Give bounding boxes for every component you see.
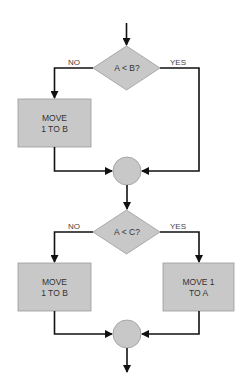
- process-2-line-2: 1 TO B: [41, 288, 68, 298]
- process-box-2: [18, 263, 91, 311]
- flowchart-diagram: A < B? NO YES MOVE 1 TO B A < C? NO YES …: [0, 0, 246, 389]
- process-3-line-2: TO A: [189, 288, 209, 298]
- process-2-line-1: MOVE: [42, 277, 67, 287]
- process-1-line-2: 1 TO B: [41, 124, 68, 134]
- decision-1-label: A < B?: [114, 63, 140, 73]
- edge-d2-yes: [160, 232, 199, 262]
- process-box-3: [163, 263, 234, 311]
- edge-p2-to-connector2: [55, 311, 113, 334]
- process-move-1-to-b-bottom: MOVE 1 TO B: [18, 263, 91, 311]
- edge-d1-no: [55, 68, 94, 98]
- edge-p3-to-connector2: [142, 311, 199, 334]
- connector-circle-2: [113, 320, 141, 348]
- decision-a-less-than-c: A < C?: [93, 210, 160, 254]
- edge-label-d2-no: NO: [68, 222, 80, 231]
- process-3-line-1: MOVE 1: [182, 277, 214, 287]
- edge-d1-yes: [142, 68, 199, 171]
- edge-label-d1-no: NO: [68, 58, 80, 67]
- process-1-line-1: MOVE: [42, 113, 67, 123]
- edge-d2-no: [55, 232, 94, 262]
- process-move-1-to-b-top: MOVE 1 TO B: [18, 99, 91, 147]
- decision-2-label: A < C?: [114, 227, 140, 237]
- connector-circle-1: [113, 157, 141, 185]
- edge-label-d1-yes: YES: [170, 58, 186, 67]
- edge-p1-to-connector1: [55, 147, 113, 171]
- decision-a-less-than-b: A < B?: [93, 46, 160, 90]
- edge-label-d2-yes: YES: [170, 222, 186, 231]
- process-box-1: [18, 99, 91, 147]
- process-move-1-to-a: MOVE 1 TO A: [163, 263, 234, 311]
